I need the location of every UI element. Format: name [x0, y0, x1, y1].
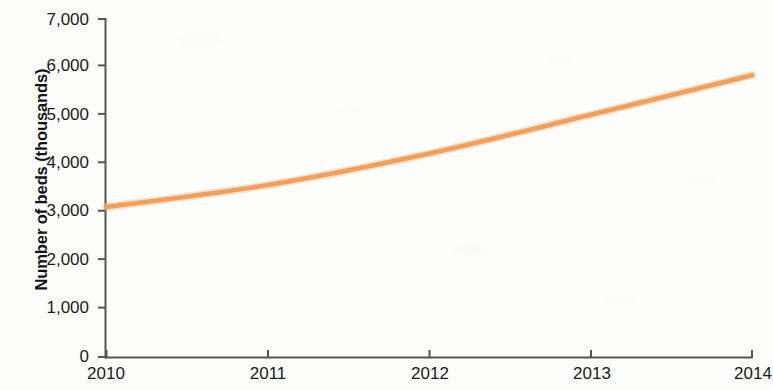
data-line-halo — [107, 75, 753, 207]
data-line-number-of-beds — [107, 75, 753, 207]
plot-area — [0, 0, 773, 390]
line-chart-figure: Number of beds (thousands) 7,000 6,000 5… — [0, 0, 773, 390]
